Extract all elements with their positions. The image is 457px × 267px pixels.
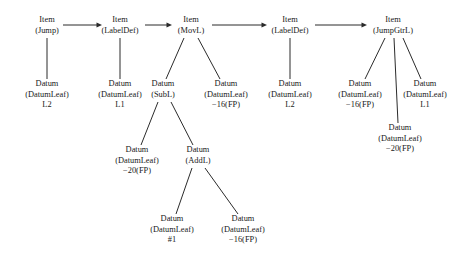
node-label-line: Datum xyxy=(414,79,437,88)
tree-node-datum-l2-a: Datum(DatumLeaf)L2 xyxy=(25,79,69,109)
sequence-arrow xyxy=(145,22,172,27)
node-label-line: (DatumLeaf) xyxy=(150,225,194,234)
node-label-line: (DatumLeaf) xyxy=(221,225,265,234)
node-label-line: L2 xyxy=(285,100,294,109)
node-label-line: −16(FP) xyxy=(346,100,374,109)
edge-group xyxy=(47,38,421,214)
node-label-line: (DatumLeaf) xyxy=(115,156,159,165)
node-label-line: Item xyxy=(385,15,401,24)
node-label-line: Datum xyxy=(161,214,184,223)
tree-edge xyxy=(205,168,238,214)
node-label-line: (DatumLeaf) xyxy=(204,90,248,99)
tree-node-datum-hash1: Datum(DatumLeaf)#1 xyxy=(150,214,194,244)
tree-node-item-movl: Item(MovL) xyxy=(178,15,205,35)
tree-node-datum-m20-a: Datum(DatumLeaf)−20(FP) xyxy=(115,145,159,175)
node-label-line: Datum xyxy=(36,79,59,88)
tree-edge xyxy=(141,102,158,145)
tree-edge xyxy=(176,168,192,214)
node-label-line: −16(FP) xyxy=(229,235,257,244)
node-label-line: (SubL) xyxy=(151,90,175,99)
tree-node-datum-m16-c: Datum(DatumLeaf)−16(FP) xyxy=(221,214,265,244)
node-label-line: Item xyxy=(112,15,128,24)
node-label-line: Datum xyxy=(109,79,132,88)
node-label-line: Datum xyxy=(126,145,149,154)
tree-edge xyxy=(198,38,220,79)
tree-node-datum-l1-b: Datum(DatumLeaf)L1 xyxy=(403,79,447,109)
node-label-line: L1 xyxy=(420,100,429,109)
tree-node-item-labeldef-2: Item(LabelDef) xyxy=(271,15,308,35)
arrow-head-icon xyxy=(262,22,268,27)
node-label-line: Datum xyxy=(215,79,238,88)
tree-node-datum-m16-a: Datum(DatumLeaf)−16(FP) xyxy=(204,79,248,109)
tree-node-datum-l1-a: Datum(DatumLeaf)L1 xyxy=(98,79,142,109)
tree-node-item-jump: Item(Jump) xyxy=(35,15,59,35)
node-label-line: (MovL) xyxy=(178,26,205,35)
tree-edge xyxy=(403,38,421,79)
node-label-line: Datum xyxy=(349,79,372,88)
node-label-line: (LabelDef) xyxy=(271,26,308,35)
tree-edge xyxy=(166,38,184,79)
node-label-line: (DatumLeaf) xyxy=(403,90,447,99)
ast-tree-diagram: Item(Jump)Item(LabelDef)Item(MovL)Item(L… xyxy=(0,0,457,267)
node-label-line: (DatumLeaf) xyxy=(25,90,69,99)
node-label-line: (DatumLeaf) xyxy=(338,90,382,99)
node-label-line: Datum xyxy=(232,214,255,223)
node-label-line: (Jump) xyxy=(35,26,59,35)
node-label-line: −20(FP) xyxy=(386,144,414,153)
node-label-line: Item xyxy=(39,15,55,24)
node-label-line: Item xyxy=(183,15,199,24)
node-label-line: (JumpGtrL) xyxy=(373,26,413,35)
node-label-line: Item xyxy=(282,15,298,24)
node-label-line: Datum xyxy=(389,123,412,132)
node-label-line: L2 xyxy=(42,100,51,109)
node-label-line: (DatumLeaf) xyxy=(268,90,312,99)
sequence-arrow xyxy=(63,22,102,27)
sequence-arrow xyxy=(315,22,367,27)
arrow-head-icon xyxy=(362,22,368,27)
node-group: Item(Jump)Item(LabelDef)Item(MovL)Item(L… xyxy=(25,15,447,244)
node-label-line: (LabelDef) xyxy=(101,26,138,35)
node-label-line: Datum xyxy=(152,79,175,88)
tree-node-item-labeldef-1: Item(LabelDef) xyxy=(101,15,138,35)
node-label-line: (DatumLeaf) xyxy=(98,90,142,99)
tree-edge xyxy=(171,102,193,145)
node-label-line: Datum xyxy=(187,145,210,154)
sequence-arrow xyxy=(212,22,267,27)
tree-node-datum-l2-b: Datum(DatumLeaf)L2 xyxy=(268,79,312,109)
tree-node-datum-addl: Datum(AddL) xyxy=(185,145,210,165)
node-label-line: −20(FP) xyxy=(123,166,151,175)
node-label-line: −16(FP) xyxy=(212,100,240,109)
tree-node-item-jumpgtrl: Item(JumpGtrL) xyxy=(373,15,413,35)
tree-node-datum-m20-b: Datum(DatumLeaf)−20(FP) xyxy=(378,123,422,153)
node-label-line: Datum xyxy=(279,79,302,88)
tree-edge xyxy=(394,38,398,123)
tree-node-datum-subl: Datum(SubL) xyxy=(151,79,175,99)
node-label-line: #1 xyxy=(168,235,176,244)
tree-edge xyxy=(365,38,385,79)
node-label-line: L1 xyxy=(115,100,124,109)
arrow-head-icon xyxy=(167,22,173,27)
node-label-line: (DatumLeaf) xyxy=(378,134,422,143)
node-label-line: (AddL) xyxy=(185,156,210,165)
tree-node-datum-m16-b: Datum(DatumLeaf)−16(FP) xyxy=(338,79,382,109)
